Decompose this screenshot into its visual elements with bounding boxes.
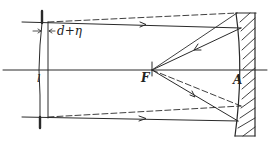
focus-label: F: [141, 72, 150, 84]
vertex-label: A: [233, 74, 242, 86]
bottom-incident-ray: [22, 117, 238, 121]
reflected-ray-top-dashed: [152, 13, 237, 70]
top-incident-ray: [22, 22, 241, 28]
arrow-icon: [139, 116, 146, 121]
reflected-ray-bottom: [152, 70, 238, 121]
bottom-dashed-ray: [48, 106, 241, 117]
plate-label: l: [37, 73, 41, 84]
reflected-ray-bottom-dashed: [152, 70, 241, 106]
reflected-ray-top: [152, 28, 241, 70]
thickness-arrows: [33, 29, 55, 33]
top-dashed-ray: [48, 13, 237, 22]
thickness-label: d+η: [57, 25, 82, 37]
arrow-icon: [140, 22, 146, 27]
